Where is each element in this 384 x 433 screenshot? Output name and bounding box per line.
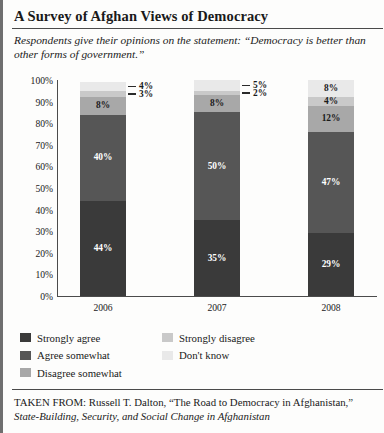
source-note: TAKEN FROM: Russell T. Dalton, “The Road… xyxy=(14,396,380,423)
segment-value-label: 12% xyxy=(322,114,341,123)
bar-2006: 44%40%8% xyxy=(80,80,126,296)
bar-segment xyxy=(194,80,240,91)
segment-value-label: 8% xyxy=(210,99,224,108)
x-axis-line xyxy=(57,296,377,297)
y-axis-tick: 100% xyxy=(12,75,53,86)
x-axis-tick: 2006 xyxy=(68,302,138,313)
legend-swatch xyxy=(20,333,31,342)
segment-value-label: 47% xyxy=(322,178,341,187)
legend-label: Strongly agree xyxy=(37,332,100,344)
segment-value-label: 4% xyxy=(324,97,338,106)
x-axis-tick: 2007 xyxy=(182,302,252,313)
callout-value: 4% xyxy=(139,81,153,91)
bar-segment xyxy=(80,91,126,97)
bar-segment: 12% xyxy=(308,106,354,132)
source-title: State-Building, Security, and Social Cha… xyxy=(14,410,270,422)
bar-segment: 8% xyxy=(194,95,240,112)
source-divider xyxy=(12,389,383,390)
y-axis-tick: 0% xyxy=(12,291,53,302)
legend-swatch xyxy=(20,351,31,360)
bar-segment: 47% xyxy=(308,132,354,234)
bar-2008: 29%47%12%4%8% xyxy=(308,80,354,296)
x-axis-tick: 2008 xyxy=(296,302,366,313)
figure-page: A Survey of Afghan Views of Democracy Re… xyxy=(0,0,384,433)
bar-segment: 4% xyxy=(308,97,354,106)
chart-subtitle: Respondents give their opinions on the s… xyxy=(14,33,376,62)
y-axis-tick: 10% xyxy=(12,269,53,280)
legend-item: Disagree somewhat xyxy=(20,364,122,382)
segment-value-label: 8% xyxy=(96,101,110,110)
segment-value-label: 40% xyxy=(94,153,113,162)
bar-segment: 40% xyxy=(80,115,126,201)
callout-leader-line xyxy=(128,86,136,88)
y-axis-tick: 20% xyxy=(12,247,53,258)
segment-value-label: 50% xyxy=(208,162,227,171)
legend-label: Agree somewhat xyxy=(37,349,110,361)
legend-label: Don't know xyxy=(179,349,229,361)
page-title: A Survey of Afghan Views of Democracy xyxy=(14,8,268,25)
bar-segment: 8% xyxy=(80,97,126,114)
callout-leader-line xyxy=(128,93,136,95)
figure-inner: A Survey of Afghan Views of Democracy Re… xyxy=(12,0,383,433)
legend-swatch xyxy=(162,333,173,342)
y-axis-tick: 40% xyxy=(12,204,53,215)
callout-leader-line xyxy=(242,92,250,94)
segment-callout-label: 4% xyxy=(128,81,153,91)
legend-item: Strongly agree xyxy=(20,329,122,347)
plot-area: 44%40%8%35%50%8%29%47%12%4%8% xyxy=(58,80,377,296)
y-axis-tick: 90% xyxy=(12,96,53,107)
callout-value: 5% xyxy=(253,80,267,90)
segment-value-label: 35% xyxy=(208,254,227,263)
legend-column-left: Strongly agreeAgree somewhatDisagree som… xyxy=(20,329,122,382)
segment-value-label: 44% xyxy=(94,244,113,253)
bar-2007: 35%50%8% xyxy=(194,80,240,296)
bar-segment: 50% xyxy=(194,112,240,220)
bar-segment: 29% xyxy=(308,233,354,296)
bar-segment: 8% xyxy=(308,80,354,97)
chart-legend: Strongly agreeAgree somewhatDisagree som… xyxy=(14,329,354,383)
legend-label: Disagree somewhat xyxy=(37,367,122,379)
legend-swatch xyxy=(162,351,173,360)
legend-item: Agree somewhat xyxy=(20,347,122,365)
bar-segment: 44% xyxy=(80,201,126,296)
bar-segment xyxy=(80,82,126,91)
segment-value-label: 29% xyxy=(322,260,341,269)
bar-segment xyxy=(194,91,240,95)
y-axis-tick: 80% xyxy=(12,118,53,129)
y-axis: 100%90%80%70%60%50%40%30%20%10%0% xyxy=(12,74,53,296)
y-axis-tick: 60% xyxy=(12,161,53,172)
legend-item: Strongly disagree xyxy=(162,329,255,347)
legend-label: Strongly disagree xyxy=(179,332,255,344)
y-axis-tick: 50% xyxy=(12,183,53,194)
y-axis-tick: 70% xyxy=(12,139,53,150)
legend-swatch xyxy=(20,368,31,377)
source-prefix: TAKEN FROM: Russell T. Dalton, “The Road… xyxy=(14,396,353,408)
legend-column-right: Strongly disagreeDon't know xyxy=(162,329,255,364)
stacked-bar-chart: 100%90%80%70%60%50%40%30%20%10%0% 44%40%… xyxy=(12,74,383,322)
legend-item: Don't know xyxy=(162,347,255,365)
segment-value-label: 8% xyxy=(324,84,338,93)
callout-leader-line xyxy=(242,85,250,87)
y-axis-tick: 30% xyxy=(12,226,53,237)
bar-segment: 35% xyxy=(194,220,240,296)
header-divider xyxy=(12,28,383,29)
segment-callout-label: 5% xyxy=(242,80,267,90)
